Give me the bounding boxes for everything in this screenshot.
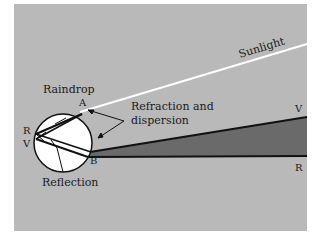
violet-right-label: V	[294, 103, 303, 114]
point-b-label: B	[90, 155, 97, 166]
red-left-label: R	[23, 125, 31, 136]
red-right-label: R	[295, 162, 303, 173]
reflection-label: Reflection	[42, 176, 98, 189]
point-a-label: A	[78, 97, 87, 108]
raindrop-label: Raindrop	[43, 83, 95, 96]
rainbow-raindrop-diagram: Sunlight Raindrop A B Refraction and dis…	[0, 0, 323, 240]
red-ray-out	[88, 156, 307, 157]
refraction-label-line2: dispersion	[131, 114, 189, 127]
refraction-label-line1: Refraction and	[131, 100, 214, 113]
violet-left-label: V	[22, 138, 31, 149]
